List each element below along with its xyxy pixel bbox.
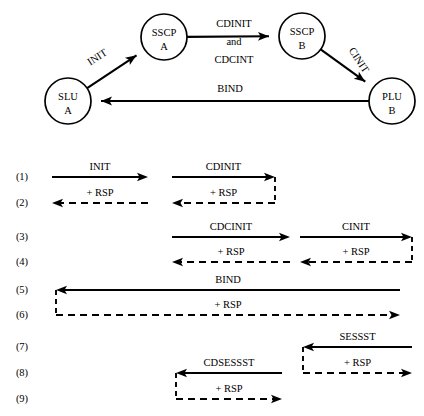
message-row-5-bind[interactable]: BIND [56, 274, 400, 294]
message-arrowhead [389, 311, 400, 319]
slu-a-label-line2: A [64, 105, 72, 116]
message-label-rsp: + RSP [210, 187, 237, 198]
message-label-cdinit: CDINIT [206, 161, 242, 172]
topology-node-plu-b[interactable]: PLUB [369, 78, 415, 124]
row-number-4: (4) [16, 256, 29, 268]
message-label-rsp: + RSP [215, 383, 242, 394]
message-row-9-rsp[interactable]: + RSP [176, 383, 282, 403]
message-row-7-sessst[interactable]: SESSST [303, 331, 412, 351]
message-label-cdsessst: CDSESSST [204, 357, 255, 368]
edge-init-label: INIT [85, 46, 109, 67]
plu-b-label-line2: B [388, 105, 395, 116]
message-row-2-rsp[interactable]: + RSP [52, 187, 148, 207]
message-label-cinit: CINIT [342, 221, 371, 232]
diagram-root: INITCDINITandCDCINTCINITBINDSLUASSCPASSC… [0, 0, 424, 416]
topology-node-sscp-a[interactable]: SSCPA [141, 14, 187, 60]
topology-diagram: INITCDINITandCDCINTCINITBINDSLUASSCPASSC… [45, 13, 415, 124]
message-row-1-init[interactable]: INIT [52, 161, 148, 181]
row-number-8: (8) [16, 367, 29, 379]
topology-node-slu-a[interactable]: SLUA [45, 78, 91, 124]
message-arrowhead [172, 199, 183, 207]
message-row-8-cdsessst[interactable]: CDSESSST [176, 357, 282, 377]
message-label-rsp: + RSP [214, 299, 241, 310]
sequence-diagram: INITCDINIT+ RSP+ RSPCDCINITCINIT+ RSP+ R… [16, 161, 412, 405]
message-label-rsp: + RSP [344, 357, 371, 368]
row-number-7: (7) [16, 341, 29, 353]
message-label-rsp: + RSP [342, 246, 369, 257]
message-row-8-rsp[interactable]: + RSP [303, 357, 412, 377]
message-label-init: INIT [90, 161, 112, 172]
row-number-5: (5) [16, 284, 29, 296]
message-label-rsp: + RSP [217, 246, 244, 257]
message-label-cdcinit: CDCINIT [210, 221, 253, 232]
message-row-6-rsp[interactable]: + RSP [56, 299, 400, 319]
plu-b-label-line1: PLU [382, 91, 402, 102]
edge-bind-label: BIND [217, 83, 243, 94]
sscp-a-label-line2: A [160, 41, 168, 52]
row-number-9: (9) [16, 393, 29, 405]
message-row-2-rsp[interactable]: + RSP [172, 187, 275, 207]
row-number-6: (6) [16, 309, 29, 321]
message-label-sessst: SESSST [339, 331, 376, 342]
edge-bind [101, 97, 369, 106]
sscp-a-label-line1: SSCP [152, 27, 177, 38]
message-row-3-cinit[interactable]: CINIT [300, 221, 412, 241]
message-row-4-rsp[interactable]: + RSP [172, 246, 290, 266]
message-label-bind: BIND [215, 274, 241, 285]
figure-canvas: INITCDINITandCDCINTCINITBINDSLUASSCPASSC… [0, 0, 424, 416]
row-number-1: (1) [16, 171, 29, 183]
row-number-3: (3) [16, 231, 29, 243]
slu-a-label-line1: SLU [58, 91, 78, 102]
edge-cdinit-label: CDINIT [216, 18, 252, 29]
edge-init-arrowhead [125, 52, 139, 65]
message-row-4-rsp[interactable]: + RSP [300, 246, 412, 266]
message-label-rsp: + RSP [86, 187, 113, 198]
row-number-2: (2) [16, 197, 29, 209]
message-row-3-cdcinit[interactable]: CDCINIT [172, 221, 290, 241]
edge-cdcint-label: CDCINT [214, 54, 254, 65]
topology-node-sscp-b[interactable]: SSCPB [279, 13, 325, 59]
edge-and-label: and [226, 36, 242, 47]
message-row-1-cdinit[interactable]: CDINIT [172, 161, 275, 181]
sscp-b-label-line1: SSCP [290, 26, 315, 37]
sscp-b-label-line2: B [298, 40, 305, 51]
